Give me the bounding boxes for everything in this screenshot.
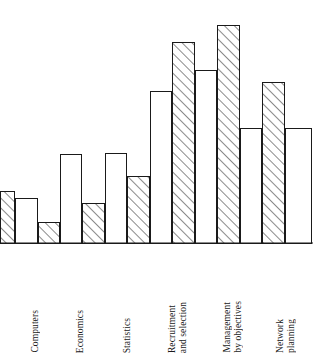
bar-8-hatched [173,43,195,244]
category-label-recruitment-line2: and selection [178,302,189,353]
bar-12-hatched [263,83,285,244]
bars-group [1,26,312,244]
bar-1-open [16,199,38,244]
category-labels: Computers Economics Statistics Recruitme… [0,248,327,355]
bar-13-open [286,129,312,244]
bar-4-hatched [83,204,105,244]
category-label-statistics: Statistics [122,318,133,353]
bar-11-open [241,129,262,244]
category-label-network-line2: planning [286,319,297,353]
bar-3-open [61,155,82,244]
bar-7-open [151,92,172,244]
category-label-network-line1: Network [275,319,286,353]
bar-chart: Computers Economics Statistics Recruitme… [0,0,327,355]
category-label-management-line2: by objectives [233,301,244,353]
category-label-management-line1: Management [222,302,233,353]
bar-6-hatched [128,177,150,244]
bar-2-hatched [39,223,60,244]
bar-0-hatched [1,192,15,244]
bar-10-hatched [218,26,240,244]
plot-area [0,0,327,250]
category-label-computers: Computers [30,310,41,353]
category-label-recruitment-line1: Recruitment [167,305,178,353]
bar-5-open [106,154,127,244]
category-label-economics: Economics [75,310,86,353]
bar-9-open [196,71,217,244]
bars-svg [0,0,327,250]
